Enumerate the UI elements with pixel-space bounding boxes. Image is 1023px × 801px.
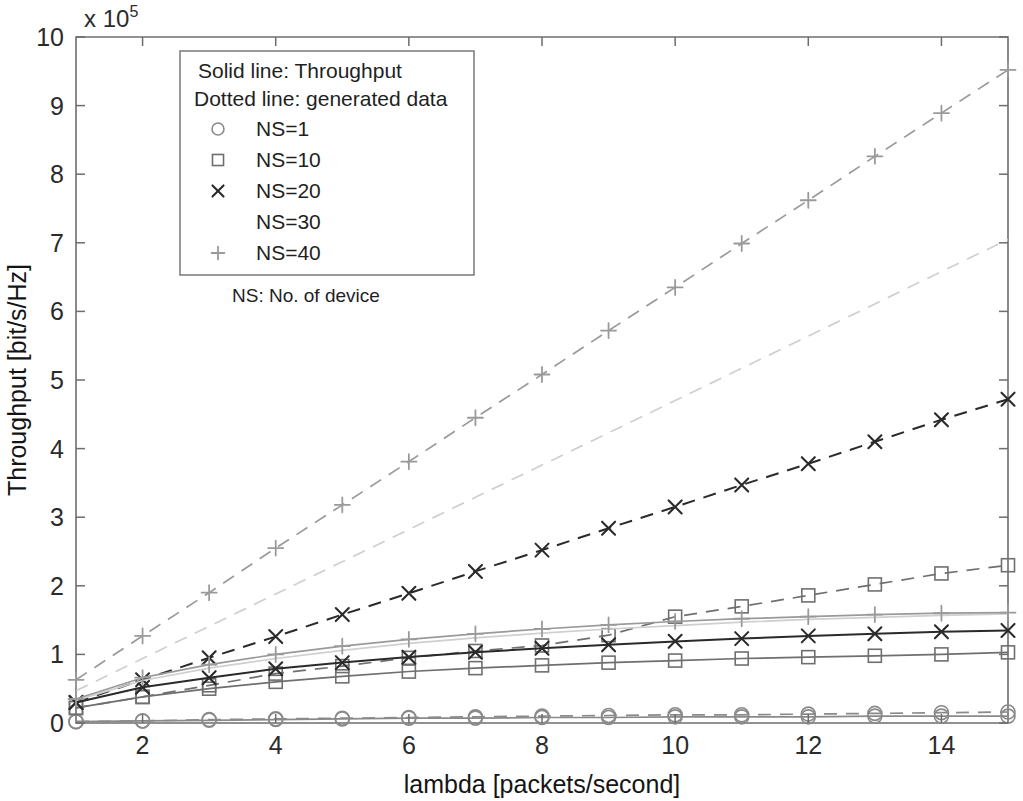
y-tick-label: 7	[50, 229, 64, 257]
y-tick-label: 1	[50, 640, 64, 668]
data-marker-plus	[1001, 62, 1016, 77]
y-tick-label: 8	[50, 160, 64, 188]
x-tick-label: 10	[661, 731, 689, 759]
y-tick-label: 9	[50, 92, 64, 120]
y-axis-title: Throughput [bit/s/Hz]	[3, 264, 31, 496]
legend-item-label: NS=30	[256, 210, 321, 233]
data-marker-cross	[868, 435, 881, 448]
data-marker-cross	[336, 608, 349, 621]
data-marker-plus	[601, 323, 616, 338]
y-tick-label: 4	[50, 435, 64, 463]
data-marker-plus	[69, 691, 84, 706]
x-tick-label: 4	[269, 731, 283, 759]
data-marker-plus	[202, 585, 217, 600]
data-marker-plus	[801, 193, 816, 208]
legend-item-label: NS=20	[256, 179, 321, 202]
y-tick-label: 10	[36, 23, 64, 51]
y-axis-multiplier: x 105	[84, 3, 138, 32]
data-marker-cross	[269, 630, 282, 643]
data-marker-plus	[934, 606, 949, 621]
y-tick-label: 2	[50, 572, 64, 600]
data-marker-cross	[536, 544, 549, 557]
legend-item-label: NS=40	[256, 241, 321, 264]
data-marker-plus	[335, 497, 350, 512]
legend-group: Solid line: ThroughputDotted line: gener…	[180, 51, 474, 306]
y-tick-label: 0	[50, 709, 64, 737]
legend-footnote: NS: No. of device	[232, 285, 380, 306]
data-marker-plus	[69, 672, 84, 687]
data-marker-plus	[135, 628, 150, 643]
x-tick-label: 12	[794, 731, 822, 759]
data-marker-plus	[1001, 605, 1016, 620]
x-tick-label: 8	[535, 731, 549, 759]
data-marker-cross	[469, 565, 482, 578]
throughput-line-chart: 2468101214012345678910lambda [packets/se…	[0, 0, 1023, 801]
data-marker-cross	[802, 457, 815, 470]
x-axis-title: lambda [packets/second]	[404, 770, 681, 798]
data-marker-plus	[401, 454, 416, 469]
x-tick-label: 2	[136, 731, 150, 759]
data-marker-plus	[801, 609, 816, 624]
data-marker-plus	[468, 410, 483, 425]
y-tick-label: 5	[50, 366, 64, 394]
data-marker-plus	[268, 541, 283, 556]
legend-item-label: NS=10	[256, 148, 321, 171]
data-marker-plus	[535, 367, 550, 382]
legend-item-label: NS=1	[256, 117, 309, 140]
data-marker-plus	[668, 280, 683, 295]
y-tick-label: 3	[50, 503, 64, 531]
data-marker-plus	[867, 607, 882, 622]
data-marker-plus	[934, 106, 949, 121]
x-tick-label: 14	[928, 731, 956, 759]
data-marker-cross	[669, 500, 682, 513]
x-tick-label: 6	[402, 731, 416, 759]
data-marker-cross	[735, 478, 748, 491]
data-marker-plus	[867, 149, 882, 164]
legend-solid-note: Solid line: Throughput	[198, 59, 402, 82]
data-marker-plus	[668, 614, 683, 629]
y-tick-label: 6	[50, 297, 64, 325]
data-marker-plus	[734, 236, 749, 251]
chart-figure: 2468101214012345678910lambda [packets/se…	[0, 0, 1023, 801]
data-marker-cross	[935, 413, 948, 426]
legend-dotted-note: Dotted line: generated data	[194, 87, 448, 110]
data-marker-cross	[602, 522, 615, 535]
data-marker-cross	[402, 587, 415, 600]
